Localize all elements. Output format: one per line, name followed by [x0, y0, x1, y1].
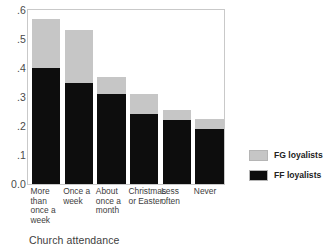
- y-axis-tick-label: .2: [2, 121, 26, 131]
- y-axis-tick-label: .5: [2, 34, 26, 44]
- chart-legend: FG loyalistsFF loyalists: [249, 148, 323, 188]
- bar-group: [163, 110, 191, 184]
- x-axis-category-label-line: Never: [194, 187, 233, 197]
- x-axis-category-label-line: month: [96, 206, 135, 216]
- y-axis-tick-label: .6: [2, 5, 26, 15]
- x-axis-title: Church attendance: [29, 234, 119, 246]
- y-axis-tick-label: .1: [2, 150, 26, 160]
- bar-segment-ff-loyalists: [195, 129, 223, 184]
- bar-segment-fg-loyalists: [65, 30, 93, 82]
- legend-swatch: [249, 150, 268, 161]
- x-axis-category-label-line: often: [161, 197, 200, 207]
- x-axis-category-label: Never: [194, 187, 233, 197]
- plot-frame: [27, 9, 225, 185]
- bar-segment-fg-loyalists: [32, 19, 60, 68]
- bar-segment-ff-loyalists: [97, 94, 125, 184]
- bar-segment-fg-loyalists: [163, 110, 191, 120]
- stacked-bar-chart: 0.0.1.2.3.4.5.6 Morethanonce aweekOnce a…: [0, 0, 323, 252]
- legend-item[interactable]: FG loyalists: [249, 148, 323, 164]
- bar-group: [65, 30, 93, 184]
- legend-label: FG loyalists: [274, 149, 323, 161]
- bar-group: [195, 119, 223, 184]
- plot-area: [28, 10, 224, 184]
- x-axis-category-labels: Morethanonce aweekOnce aweekAboutonce am…: [27, 187, 225, 231]
- bar-segment-ff-loyalists: [130, 114, 158, 184]
- legend-label: FF loyalists: [274, 169, 321, 181]
- bar-segment-fg-loyalists: [97, 77, 125, 94]
- bar-segment-ff-loyalists: [163, 120, 191, 184]
- y-axis: 0.0.1.2.3.4.5.6: [0, 0, 26, 252]
- bar-segment-ff-loyalists: [32, 68, 60, 184]
- y-axis-tick-label: .4: [2, 63, 26, 73]
- legend-swatch: [249, 170, 268, 181]
- legend-item[interactable]: FF loyalists: [249, 168, 323, 184]
- bar-segment-fg-loyalists: [195, 119, 223, 129]
- bar-segment-fg-loyalists: [130, 94, 158, 114]
- y-axis-tick-label: 0.0: [2, 179, 26, 189]
- y-axis-tick-label: .3: [2, 92, 26, 102]
- x-axis-category-label-line: week: [31, 216, 70, 226]
- bar-group: [32, 19, 60, 184]
- bar-group: [97, 77, 125, 184]
- bar-group: [130, 94, 158, 184]
- bar-segment-ff-loyalists: [65, 83, 93, 185]
